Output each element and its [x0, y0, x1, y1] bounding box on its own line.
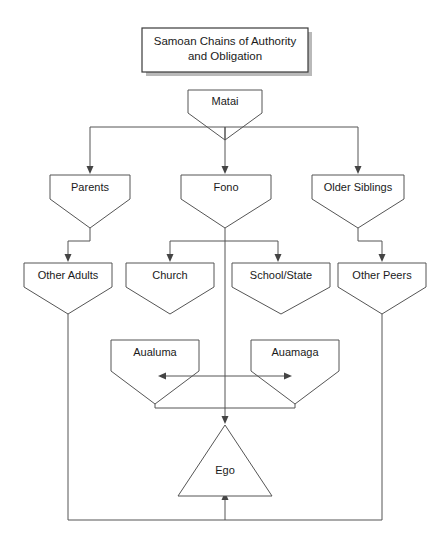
- node-other-peers[interactable]: [338, 263, 426, 314]
- node-other-adults[interactable]: [24, 263, 112, 314]
- arrowhead-parents: [87, 166, 94, 174]
- node-church[interactable]: [126, 263, 214, 314]
- node-older-siblings[interactable]: [312, 175, 404, 228]
- arrowhead-school-state: [275, 254, 282, 262]
- node-aualuma[interactable]: [111, 340, 199, 404]
- connector-parents-to-other-adults: [68, 228, 90, 256]
- diagram-canvas: [0, 0, 446, 541]
- arrowhead-other-peers: [379, 254, 386, 262]
- arrowhead-other-adults: [65, 254, 72, 262]
- title-line-2: and Obligation: [142, 49, 308, 64]
- node-auamaga[interactable]: [251, 340, 339, 404]
- node-fono[interactable]: [181, 175, 271, 228]
- title-line-1: Samoan Chains of Authority: [142, 34, 308, 49]
- samoan-authority-diagram: Samoan Chains of Authority and Obligatio…: [0, 0, 446, 541]
- arrowhead-fono: [222, 166, 229, 174]
- arrowhead-ego-top: [222, 416, 229, 424]
- diagram-title: Samoan Chains of Authority and Obligatio…: [142, 34, 308, 64]
- node-ego[interactable]: [178, 425, 272, 496]
- node-school-state[interactable]: [232, 263, 330, 314]
- arrowhead-church: [167, 254, 174, 262]
- node-parents[interactable]: [50, 175, 130, 228]
- arrowhead-older-siblings: [355, 166, 362, 174]
- connector-siblings-to-other-peers: [358, 228, 382, 256]
